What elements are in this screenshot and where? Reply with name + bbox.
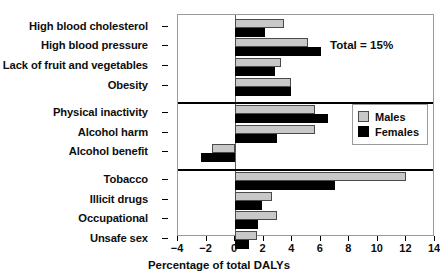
category-tick-icon [162, 218, 168, 219]
legend: Males Females [352, 104, 428, 145]
category-label: Physical inactivity [53, 106, 148, 118]
bar-females [201, 153, 235, 162]
category-tick-icon [162, 179, 168, 180]
x-axis-tick [320, 236, 321, 241]
bar-males [235, 38, 308, 47]
category-label: Lack of fruit and vegetables [3, 59, 148, 71]
bar-females [235, 47, 321, 56]
x-axis-tick [177, 236, 178, 241]
bar-females [235, 114, 328, 123]
category-tick-icon [162, 65, 168, 66]
bar-females [235, 28, 265, 37]
category-label: Alcohol harm [78, 126, 148, 138]
category-tick-icon [162, 132, 168, 133]
x-axis-tick-label: 0 [231, 242, 237, 254]
category-labels-column: High blood cholesterolHigh blood pressur… [0, 0, 168, 277]
bar-females [235, 87, 291, 96]
legend-item-males: Males [358, 109, 422, 124]
bar-males [235, 105, 315, 114]
x-axis-tick [234, 236, 235, 241]
category-tick-icon [162, 112, 168, 113]
legend-label-females: Females [375, 126, 419, 138]
legend-label-males: Males [375, 111, 406, 123]
x-axis-tick [405, 236, 406, 241]
bar-males [235, 211, 276, 220]
x-axis-tick [377, 236, 378, 241]
clipped-header-text [196, 0, 199, 4]
x-axis-tick-label: 14 [428, 242, 440, 254]
x-axis-tick [348, 236, 349, 241]
bar-females [235, 134, 276, 143]
category-label: High blood pressure [41, 39, 148, 51]
category-tick-icon [162, 199, 168, 200]
bar-females [235, 201, 262, 210]
bar-males [235, 78, 291, 87]
bar-males [212, 144, 235, 153]
group-separator [178, 169, 433, 171]
x-axis-tick [434, 236, 435, 241]
x-axis-tick-label: 6 [317, 242, 323, 254]
bar-males [235, 19, 284, 28]
category-label: High blood cholesterol [29, 20, 148, 32]
bar-females [235, 220, 258, 229]
x-axis-tick-label: 12 [399, 242, 411, 254]
category-tick-icon [162, 45, 168, 46]
category-label: Unsafe sex [90, 232, 148, 244]
category-tick-icon [162, 85, 168, 86]
category-label: Alcohol benefit [69, 145, 148, 157]
bar-males [235, 125, 315, 134]
x-axis-tick [263, 236, 264, 241]
x-axis-tick [206, 236, 207, 241]
legend-item-females: Females [358, 124, 422, 139]
x-axis-tick-label: −4 [171, 242, 184, 254]
total-annotation: Total = 15% [330, 38, 393, 51]
category-label: Tobacco [104, 173, 148, 185]
category-label: Obesity [108, 79, 148, 91]
x-axis-tick-label: 4 [288, 242, 294, 254]
legend-swatch-males-icon [358, 111, 369, 122]
x-axis-tick-label: −2 [199, 242, 212, 254]
category-label: Illicit drugs [90, 193, 148, 205]
category-label: Occupational [78, 212, 148, 224]
bar-females [235, 181, 335, 190]
bar-males [235, 172, 406, 181]
x-axis-tick-label: 2 [260, 242, 266, 254]
bar-males [235, 58, 281, 67]
x-axis-label: Percentage of total DALYs [0, 259, 438, 271]
x-axis-tick-label: 8 [345, 242, 351, 254]
x-axis-tick-label: 10 [371, 242, 383, 254]
x-axis: −4−202468101214 [177, 236, 434, 244]
category-tick-icon [162, 238, 168, 239]
bar-females [235, 67, 275, 76]
legend-swatch-females-icon [358, 126, 369, 137]
x-axis-tick [291, 236, 292, 241]
bar-males [235, 192, 272, 201]
category-tick-icon [162, 26, 168, 27]
category-tick-icon [162, 151, 168, 152]
